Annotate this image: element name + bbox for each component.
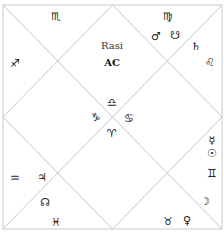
planet-jupiter-icon: ♃ <box>37 172 47 183</box>
sign-libra-icon: ♎ <box>107 97 117 108</box>
sign-aquarius-icon: ♒ <box>10 173 20 184</box>
chart-title: Rasi <box>101 40 123 51</box>
planet-mars-icon: ♂ <box>151 31 161 42</box>
sign-gemini-icon: ♊ <box>207 168 217 179</box>
sign-sagittarius-icon: ♐ <box>10 58 20 69</box>
sign-aries-icon: ♈ <box>107 128 117 139</box>
chart-frame <box>0 0 224 241</box>
planet-venus-icon: ♀ <box>183 215 191 226</box>
sign-virgo-icon: ♍ <box>163 11 173 22</box>
chart-subtitle-ascendant: AC <box>104 57 120 68</box>
planet-rahu-icon: ☊ <box>40 197 50 208</box>
sign-cancer-icon: ♋ <box>124 113 134 124</box>
sign-taurus-icon: ♉ <box>163 216 173 227</box>
planet-saturn-icon: ♄ <box>191 41 201 52</box>
planet-ketu-icon: ☋ <box>170 30 180 41</box>
sign-leo-icon: ♌ <box>205 57 215 68</box>
sign-scorpio-icon: ♏ <box>51 11 61 22</box>
sign-capricorn-icon: ♑ <box>91 112 101 123</box>
planet-sun-icon: ☉ <box>207 148 217 159</box>
planet-mercury-icon: ☿ <box>209 135 216 146</box>
planet-moon-icon: ☽ <box>200 196 210 207</box>
sign-pisces-icon: ♓ <box>51 217 61 228</box>
